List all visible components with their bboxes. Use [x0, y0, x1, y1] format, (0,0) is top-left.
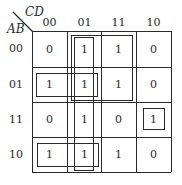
col-header-11: 11: [101, 17, 136, 28]
group-row11-col10: [143, 108, 165, 130]
cell-00-00: 0: [32, 32, 67, 67]
group-row10-cols00-01: [37, 143, 99, 167]
col-header-00: 00: [32, 17, 67, 28]
grid-line: [171, 31, 172, 172]
grid-line: [32, 172, 171, 173]
col-header-10: 10: [136, 17, 171, 28]
cell-11-11: 0: [101, 102, 136, 137]
cell-10-10: 0: [136, 137, 171, 172]
row-header-00: 00: [4, 43, 28, 54]
cell-00-10: 0: [136, 32, 171, 67]
row-header-01: 01: [4, 79, 28, 90]
cell-11-00: 0: [32, 102, 67, 137]
col-header-01: 01: [67, 17, 102, 28]
cell-01-10: 0: [136, 67, 171, 102]
row-header-11: 11: [4, 114, 28, 125]
row-variable-label: AB: [7, 23, 24, 35]
row-header-10: 10: [4, 149, 28, 160]
group-row01-cols00-01: [36, 73, 98, 97]
cell-10-11: 1: [101, 137, 136, 172]
